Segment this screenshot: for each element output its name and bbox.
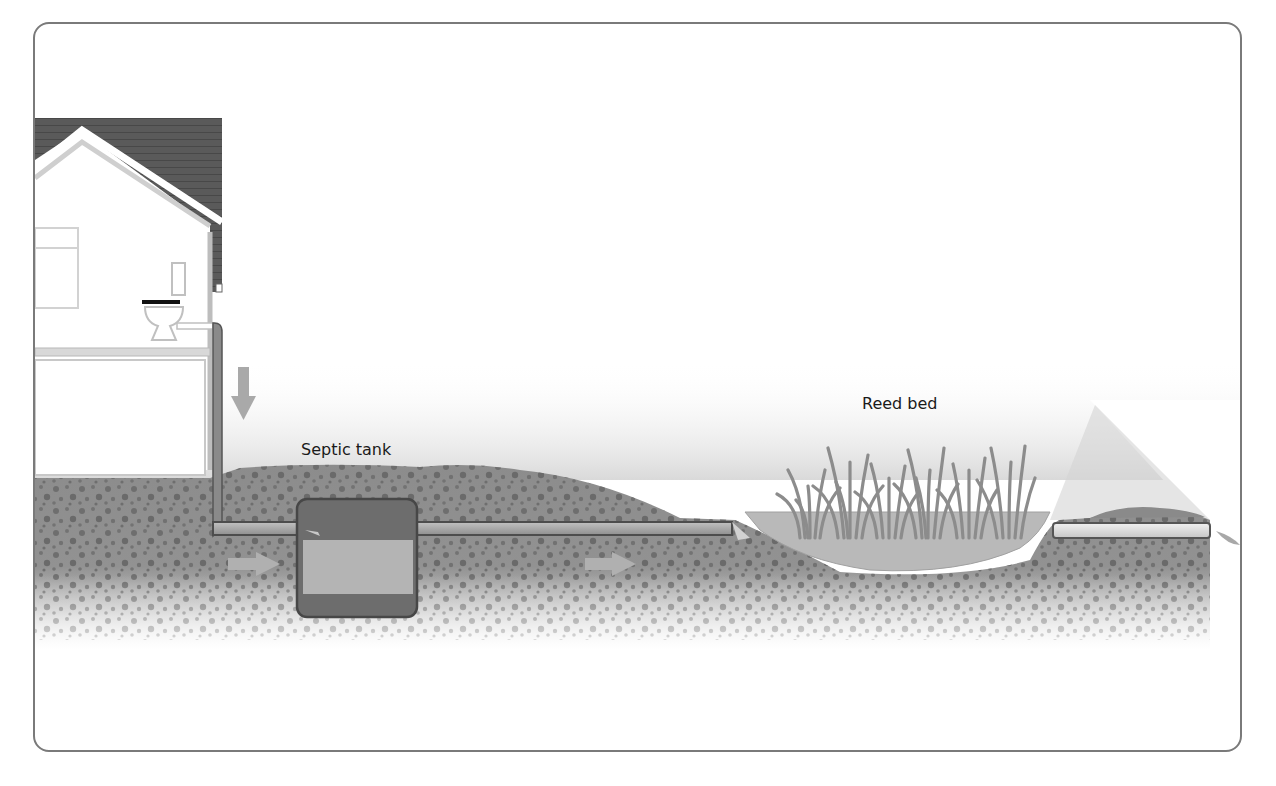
drain-outflow [1216, 531, 1240, 545]
downpipe [213, 323, 222, 536]
drain-pipe [1053, 523, 1210, 538]
house [35, 118, 222, 475]
septic-tank-label: Septic tank [301, 440, 391, 459]
septic-tank [297, 499, 417, 617]
floor [35, 348, 210, 356]
tank-liquid-layer [303, 540, 413, 594]
septic-diagram [0, 0, 1276, 786]
window [35, 228, 78, 308]
reed-bed-label: Reed bed [862, 394, 937, 413]
